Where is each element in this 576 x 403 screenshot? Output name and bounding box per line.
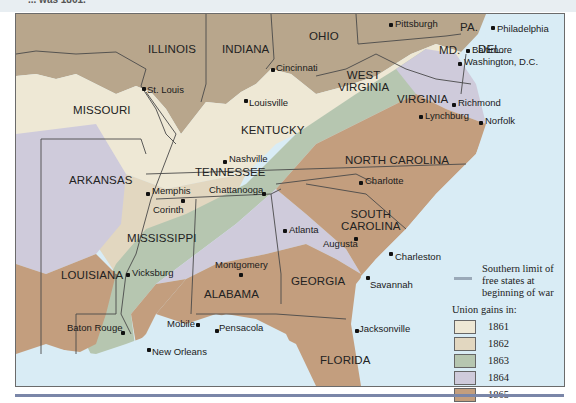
- legend-item-1861: 1861: [452, 318, 562, 335]
- state-label-indiana: INDIANA: [222, 43, 269, 55]
- legend-item-1864: 1864: [452, 369, 562, 386]
- city-label-baton-rouge: Baton Rouge: [67, 323, 122, 333]
- city-dot-norfolk: [479, 121, 483, 125]
- city-label-pittsburgh: Pittsburgh: [395, 19, 438, 29]
- state-label-alabama: ALABAMA: [204, 288, 259, 300]
- legend-item-1863: 1863: [452, 352, 562, 369]
- city-label-corinth: Corinth: [153, 205, 184, 215]
- state-label-florida: FLORIDA: [320, 354, 371, 366]
- city-dot-charlotte: [359, 181, 363, 185]
- city-label-washington: Washington, D.C.: [464, 57, 538, 67]
- city-label-louisville: Louisville: [249, 98, 288, 108]
- swatch-1861: [454, 320, 476, 334]
- city-dot-cincinnati: [271, 68, 275, 72]
- city-label-atlanta: Atlanta: [289, 225, 319, 235]
- city-dot-louisville: [244, 99, 248, 103]
- swatch-1863: [454, 354, 476, 368]
- state-label-arkansas: ARKANSAS: [69, 174, 132, 186]
- city-label-augusta: Augusta: [323, 239, 358, 249]
- state-label-ohio: OHIO: [309, 30, 339, 42]
- state-label-virginia: VIRGINIA: [397, 93, 448, 105]
- state-label-georgia: GEORGIA: [291, 275, 345, 287]
- city-label-savannah: Savannah: [370, 280, 413, 290]
- city-dot-richmond: [452, 103, 456, 107]
- city-dot-st-louis: [142, 87, 146, 91]
- state-label-illinois: ILLINOIS: [148, 43, 196, 55]
- cropped-caption-strip: ... was 1861.: [0, 0, 576, 12]
- city-dot-new-orleans: [147, 348, 151, 352]
- city-label-richmond: Richmond: [458, 98, 501, 108]
- state-label-north-carolina: NORTH CAROLINA: [345, 154, 449, 166]
- city-dot-washington: [458, 62, 462, 66]
- city-label-jacksonville: Jacksonville: [359, 324, 410, 334]
- swatch-1864: [454, 371, 476, 385]
- city-label-montgomery: Montgomery: [215, 260, 268, 270]
- city-dot-vicksburg: [126, 273, 130, 277]
- city-label-cincinnati: Cincinnati: [276, 63, 318, 73]
- city-dot-atlanta: [283, 229, 287, 233]
- city-dot-montgomery: [239, 273, 243, 277]
- city-dot-lynchburg: [419, 115, 423, 119]
- city-label-baltimore: Baltimore: [472, 45, 512, 55]
- state-label-missouri: MISSOURI: [73, 104, 131, 116]
- state-label-west-virginia: WEST VIRGINIA: [338, 69, 389, 93]
- city-label-norfolk: Norfolk: [485, 116, 515, 126]
- bottom-rule-divider: [15, 394, 564, 397]
- city-dot-pittsburgh: [389, 23, 393, 27]
- city-label-lynchburg: Lynchburg: [425, 111, 469, 121]
- city-dot-memphis: [146, 192, 150, 196]
- city-label-chattanooga: Chattanooga: [209, 185, 263, 195]
- state-label-louisiana: LOUISIANA: [61, 269, 123, 281]
- legend-title: Union gains in:: [452, 304, 562, 315]
- city-dot-nashville: [223, 160, 227, 164]
- city-label-memphis: Memphis: [152, 186, 191, 196]
- state-label-md: MD.: [439, 44, 460, 56]
- city-label-charlotte: Charlotte: [365, 176, 404, 186]
- city-dot-mobile: [196, 323, 200, 327]
- city-dot-corinth: [181, 199, 185, 203]
- city-dot-philadelphia: [491, 26, 495, 30]
- city-label-nashville: Nashville: [229, 154, 268, 164]
- legend-southern-limit: Southern limit of free states at beginni…: [452, 258, 562, 302]
- legend-item-1862: 1862: [452, 335, 562, 352]
- city-label-new-orleans: New Orleans: [152, 347, 207, 357]
- city-label-mobile: Mobile: [167, 319, 195, 329]
- state-label-south-carolina: SOUTH CAROLINA: [341, 208, 401, 232]
- city-label-pensacola: Pensacola: [219, 323, 263, 333]
- state-label-mississippi: MISSISSIPPI: [127, 232, 196, 244]
- state-label-tennessee: TENNESSEE: [195, 166, 266, 178]
- map-legend: Southern limit of free states at beginni…: [452, 258, 562, 403]
- city-label-vicksburg: Vicksburg: [132, 268, 174, 278]
- city-label-st-louis: St. Louis: [147, 85, 184, 95]
- cropped-caption: ... was 1861.: [28, 0, 86, 5]
- city-dot-baltimore: [466, 49, 470, 53]
- city-label-charleston: Charleston: [395, 252, 441, 262]
- state-label-kentucky: KENTUCKY: [241, 124, 304, 136]
- city-dot-charleston: [389, 252, 393, 256]
- state-label-pa: PA.: [460, 21, 478, 33]
- swatch-1862: [454, 337, 476, 351]
- southern-limit-line-icon: [454, 277, 472, 280]
- city-label-philadelphia: Philadelphia: [497, 24, 549, 34]
- legend-southern-limit-label: Southern limit of free states at beginni…: [482, 263, 554, 299]
